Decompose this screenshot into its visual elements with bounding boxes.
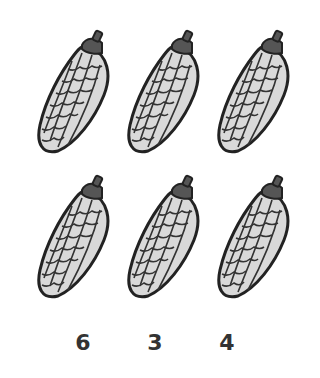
choice-option[interactable]: 3 [140, 330, 170, 355]
corn-icon [28, 170, 118, 300]
corn-icon [208, 25, 298, 155]
choice-option[interactable]: 6 [68, 330, 98, 355]
corn-icon [118, 170, 208, 300]
choice-option[interactable]: 4 [212, 330, 242, 355]
corn-icon [28, 25, 118, 155]
corn-icon [118, 25, 208, 155]
corn-icon [208, 170, 298, 300]
